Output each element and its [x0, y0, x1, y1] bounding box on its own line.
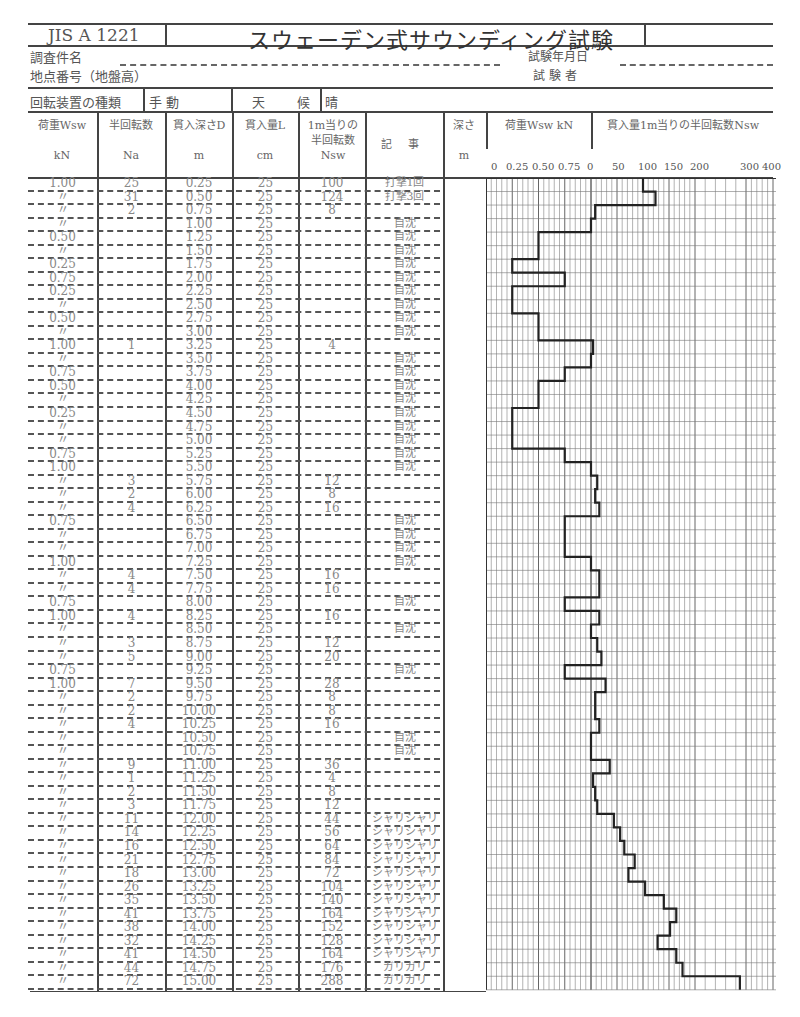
- cell-na: 4: [98, 501, 165, 515]
- cell-l: 25: [233, 203, 298, 217]
- cell-w: 〃: [28, 839, 97, 853]
- cell-na: 1: [98, 338, 165, 352]
- cell-l: 25: [233, 420, 298, 434]
- header-half-turns: 半回転数Na: [98, 118, 164, 163]
- cell-l: 25: [233, 244, 298, 258]
- cell-l: 25: [233, 528, 298, 542]
- tick-label: 200: [690, 161, 709, 172]
- cell-d: 2.00: [166, 271, 232, 285]
- cell-w: 〃: [28, 704, 97, 718]
- cell-w: 〃: [28, 758, 97, 772]
- cell-l: 25: [233, 690, 298, 704]
- cell-w: 〃: [28, 825, 97, 839]
- cell-d: 7.75: [166, 582, 232, 596]
- cell-na: 2: [98, 704, 165, 718]
- cell-nsw: 4: [299, 771, 365, 785]
- cell-d: 12.25: [166, 825, 232, 839]
- cell-note: 自沈: [366, 420, 443, 434]
- cell-l: 25: [233, 325, 298, 339]
- tick-label: 150: [664, 161, 683, 172]
- cell-note: シャリシャリ: [366, 934, 443, 948]
- cell-l: 25: [233, 487, 298, 501]
- cell-w: 〃: [28, 433, 97, 447]
- cell-nsw: 12: [299, 798, 365, 812]
- cell-d: 0.50: [166, 190, 232, 204]
- cell-d: 8.50: [166, 622, 232, 636]
- tester-label: 試 験 者: [533, 66, 577, 83]
- cell-na: 16: [98, 839, 165, 853]
- cell-l: 25: [233, 866, 298, 880]
- device-value: 手 動: [149, 92, 179, 111]
- cell-w: 〃: [28, 501, 97, 515]
- cell-note: 打撃1回: [366, 176, 443, 190]
- cell-l: 25: [233, 190, 298, 204]
- cell-note: 自沈: [366, 460, 443, 474]
- cell-na: 2: [98, 487, 165, 501]
- cell-l: 25: [233, 650, 298, 664]
- cell-na: 31: [98, 190, 165, 204]
- cell-note: 自沈: [366, 230, 443, 244]
- cell-note: 自沈: [366, 744, 443, 758]
- cell-na: 72: [98, 974, 165, 988]
- cell-na: 7: [98, 677, 165, 691]
- cell-d: 11.50: [166, 785, 232, 799]
- sounding-chart: [486, 178, 776, 992]
- cell-w: 〃: [28, 880, 97, 894]
- cell-note: 自沈: [366, 622, 443, 636]
- cell-d: 14.50: [166, 947, 232, 961]
- cell-l: 25: [233, 392, 298, 406]
- cell-l: 25: [233, 582, 298, 596]
- table-row: 〃7215.0025288ガリガリ: [28, 976, 440, 990]
- tick-label: 0: [491, 161, 497, 172]
- cell-d: 5.00: [166, 433, 232, 447]
- cell-l: 25: [233, 176, 298, 190]
- cell-na: 4: [98, 717, 165, 731]
- cell-note: 自沈: [366, 541, 443, 555]
- cell-na: 18: [98, 866, 165, 880]
- cell-l: 25: [233, 622, 298, 636]
- cell-nsw: 8: [299, 785, 365, 799]
- cell-w: 〃: [28, 812, 97, 826]
- cell-d: 5.75: [166, 474, 232, 488]
- cell-l: 25: [233, 474, 298, 488]
- cell-na: 38: [98, 920, 165, 934]
- cell-l: 25: [233, 541, 298, 555]
- cell-nsw: 8: [299, 704, 365, 718]
- cell-l: 25: [233, 812, 298, 826]
- cell-w: 〃: [28, 690, 97, 704]
- weather-label: 天 候: [252, 92, 324, 111]
- header-nsw-chart: 貫入量1m当りの半回転数Nsw: [592, 118, 774, 133]
- header-depth: 貫入深さDm: [166, 118, 232, 163]
- cell-note: 自沈: [366, 352, 443, 366]
- cell-w: 〃: [28, 244, 97, 258]
- cell-l: 25: [233, 460, 298, 474]
- cell-l: 25: [233, 636, 298, 650]
- cell-w: 〃: [28, 920, 97, 934]
- cell-note: シャリシャリ: [366, 812, 443, 826]
- cell-w: 〃: [28, 961, 97, 975]
- cell-na: 41: [98, 947, 165, 961]
- cell-w: 〃: [28, 974, 97, 988]
- cell-na: 2: [98, 785, 165, 799]
- tick-label: 100: [638, 161, 657, 172]
- cell-nsw: 140: [299, 893, 365, 907]
- cell-w: 〃: [28, 744, 97, 758]
- cell-w: 〃: [28, 392, 97, 406]
- cell-nsw: 164: [299, 907, 365, 921]
- project-field[interactable]: [120, 64, 500, 66]
- cell-na: 21: [98, 853, 165, 867]
- cell-nsw: 164: [299, 947, 365, 961]
- cell-na: 4: [98, 609, 165, 623]
- cell-l: 25: [233, 311, 298, 325]
- date-field[interactable]: [620, 64, 773, 66]
- cell-note: 自沈: [366, 731, 443, 745]
- cell-nsw: 16: [299, 582, 365, 596]
- tick-label: 300: [740, 161, 759, 172]
- device-divider: [143, 87, 145, 111]
- cell-l: 25: [233, 798, 298, 812]
- cell-d: 6.75: [166, 528, 232, 542]
- device-label: 回転装置の種類: [30, 92, 121, 111]
- cell-l: 25: [233, 338, 298, 352]
- header-nsw: 1m当りの半回転数Nsw: [305, 118, 361, 163]
- cell-d: 4.25: [166, 392, 232, 406]
